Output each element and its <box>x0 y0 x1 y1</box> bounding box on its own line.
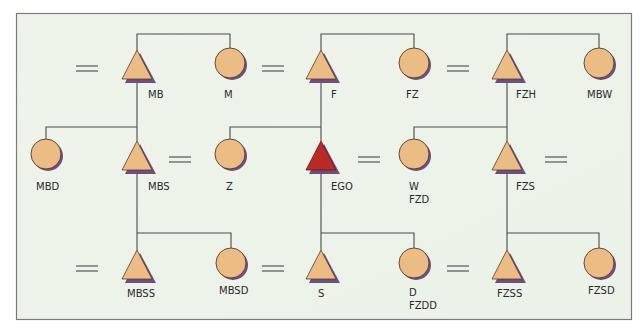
label-mbsd: MBSD <box>219 285 249 296</box>
label-m: M <box>224 89 233 100</box>
label-fzss: FZSS <box>497 288 522 299</box>
label-mbss: MBSS <box>127 288 155 299</box>
label-fzdd: FZDD <box>409 300 437 311</box>
label-d: D <box>409 287 417 298</box>
label-z: Z <box>226 181 233 192</box>
label-f: F <box>331 89 337 100</box>
label-mbd: MBD <box>36 181 59 192</box>
kinship-diagram: MB M F FZ FZH MBW MBD MBS Z EGO W FZD FZ… <box>0 0 644 334</box>
label-fzd: FZD <box>409 194 430 205</box>
label-ego: EGO <box>331 181 353 192</box>
label-fzh: FZH <box>516 89 536 100</box>
label-fzs: FZS <box>516 181 535 192</box>
label-mbw: MBW <box>587 89 612 100</box>
label-mb: MB <box>148 89 164 100</box>
label-fz: FZ <box>406 89 419 100</box>
label-fzsd: FZSD <box>588 285 615 296</box>
label-mbs: MBS <box>148 181 170 192</box>
label-s: S <box>318 288 324 299</box>
label-w: W <box>409 181 419 192</box>
